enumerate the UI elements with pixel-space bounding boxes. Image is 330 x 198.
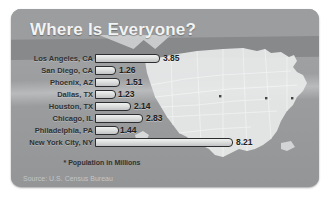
page-title: Where Is Everyone? [30, 20, 196, 40]
chart-row: New York City, NY 8.21 [11, 137, 319, 149]
infographic-card: Where Is Everyone? Los Angeles, CA 3.85 … [11, 9, 319, 187]
bar-category-label: New York City, NY [11, 137, 93, 148]
bar [95, 90, 116, 99]
bar-track [95, 138, 233, 147]
bar-track [95, 102, 131, 111]
bar-value-label: 2.83 [146, 113, 163, 124]
bar-value-label: 2.14 [134, 101, 151, 112]
bar [95, 138, 233, 147]
bar-track [95, 90, 116, 99]
bar-track [95, 126, 119, 135]
bar-value-label: 3.85 [163, 53, 180, 64]
bar-category-label: Houston, TX [11, 101, 93, 112]
bar-category-label: Dallas, TX [11, 89, 93, 100]
chart-footnote: * Population in Millions [11, 159, 193, 166]
chart-row: Los Angeles, CA 3.85 [11, 53, 319, 65]
bar-category-label: Chicago, IL [11, 113, 93, 124]
bar [95, 102, 131, 111]
bar-category-label: San Diego, CA [11, 65, 93, 76]
bar-category-label: Los Angeles, CA [11, 53, 93, 64]
bar-value-label: 1.44 [120, 125, 137, 136]
bar-track [95, 78, 120, 87]
bar [95, 114, 143, 123]
bar-category-label: Phoenix, AZ [11, 77, 93, 88]
bar-track [95, 66, 116, 75]
bar-value-label: 1.26 [119, 65, 136, 76]
chart-row: Chicago, IL 2.83 [11, 113, 319, 125]
bar-chart: Los Angeles, CA 3.85 San Diego, CA 1.26 … [11, 53, 319, 149]
bar [95, 78, 120, 87]
chart-row: Houston, TX 2.14 [11, 101, 319, 113]
bar-value-label: 1.51 [126, 77, 143, 88]
bar-track [95, 114, 143, 123]
chart-row: Phoenix, AZ 1.51 [11, 77, 319, 89]
chart-row: Philadelphia, PA 1.44 [11, 125, 319, 137]
bar [95, 126, 119, 135]
chart-row: San Diego, CA 1.26 [11, 65, 319, 77]
bar-value-label: 1.23 [118, 89, 135, 100]
bar [95, 54, 160, 63]
bar-track [95, 54, 160, 63]
chart-row: Dallas, TX 1.23 [11, 89, 319, 101]
source-credit: Source: U.S. Census Bureau [23, 175, 113, 182]
bar [95, 66, 116, 75]
bar-category-label: Philadelphia, PA [11, 125, 93, 136]
bar-value-label: 8.21 [236, 137, 253, 148]
